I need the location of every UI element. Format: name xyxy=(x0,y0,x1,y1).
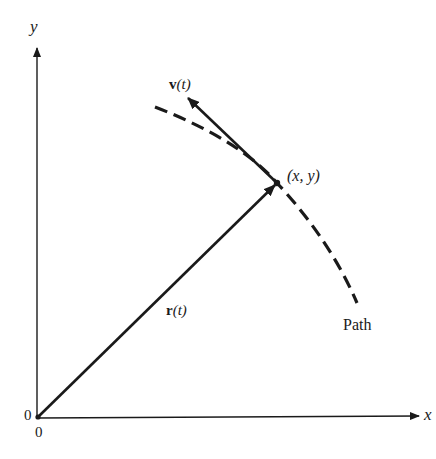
position-arg: (t) xyxy=(173,302,187,318)
origin-marker xyxy=(35,414,40,419)
origin-label-x: 0 xyxy=(35,425,43,440)
y-axis-label: y xyxy=(30,18,38,35)
velocity-label: v(t) xyxy=(169,77,191,92)
x-axis-label: x xyxy=(424,406,432,423)
path-label: Path xyxy=(343,317,371,333)
velocity-vector-arrow xyxy=(188,98,277,183)
point-label: (x, y) xyxy=(287,168,320,184)
x-axis xyxy=(37,416,419,418)
point-marker xyxy=(274,180,280,186)
position-vector-arrow xyxy=(38,185,275,417)
velocity-arg: (t) xyxy=(177,76,191,92)
velocity-symbol: v xyxy=(169,76,177,92)
origin-label-y: 0 xyxy=(24,408,32,423)
diagram-canvas xyxy=(0,0,436,459)
position-label: r(t) xyxy=(166,303,187,318)
position-symbol: r xyxy=(166,302,173,318)
